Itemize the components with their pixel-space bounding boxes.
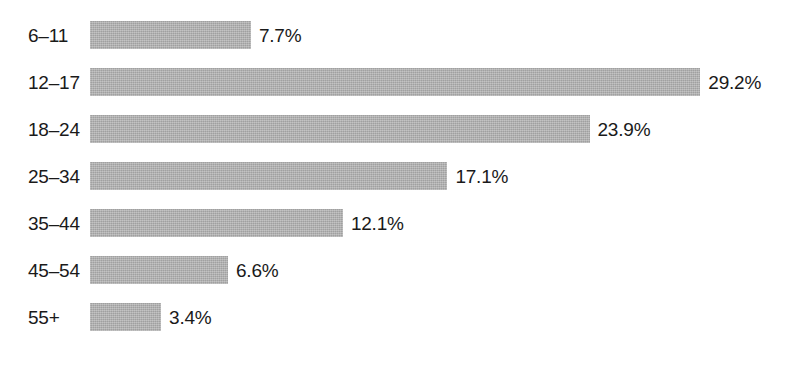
- bar-row: 25–3417.1%: [0, 162, 785, 190]
- value-label: 17.1%: [455, 167, 508, 186]
- value-label: 29.2%: [708, 73, 761, 92]
- bar: [90, 68, 700, 96]
- bar-row: 35–4412.1%: [0, 209, 785, 237]
- bar: [90, 162, 447, 190]
- value-label: 23.9%: [598, 120, 651, 139]
- bar-row: 18–2423.9%: [0, 115, 785, 143]
- category-label: 18–24: [28, 120, 80, 139]
- bar-container: 6.6%: [90, 256, 278, 284]
- category-label: 35–44: [28, 214, 80, 233]
- bar-container: 12.1%: [90, 209, 404, 237]
- bar: [90, 21, 251, 49]
- category-label: 55+: [28, 308, 60, 327]
- value-label: 7.7%: [259, 26, 302, 45]
- bar-row: 55+3.4%: [0, 303, 785, 331]
- bar: [90, 209, 343, 237]
- horizontal-bar-chart: 6–117.7%12–1729.2%18–2423.9%25–3417.1%35…: [0, 0, 785, 370]
- category-label: 45–54: [28, 261, 80, 280]
- category-label: 6–11: [28, 26, 68, 45]
- bar-container: 23.9%: [90, 115, 650, 143]
- value-label: 3.4%: [169, 308, 212, 327]
- category-label: 25–34: [28, 167, 80, 186]
- bar-container: 17.1%: [90, 162, 508, 190]
- bar-container: 29.2%: [90, 68, 761, 96]
- bar-container: 7.7%: [90, 21, 301, 49]
- bar: [90, 256, 228, 284]
- value-label: 6.6%: [236, 261, 279, 280]
- category-label: 12–17: [28, 73, 80, 92]
- bar-row: 6–117.7%: [0, 21, 785, 49]
- bar: [90, 115, 590, 143]
- bar: [90, 303, 161, 331]
- bar-row: 45–546.6%: [0, 256, 785, 284]
- bar-container: 3.4%: [90, 303, 212, 331]
- value-label: 12.1%: [351, 214, 404, 233]
- bar-row: 12–1729.2%: [0, 68, 785, 96]
